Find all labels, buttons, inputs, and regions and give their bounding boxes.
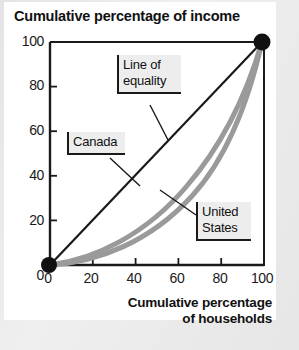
annotation-canada-line1: Canada <box>73 134 120 150</box>
chart-screenshot: Cumulative percentage of income 100 80 6… <box>0 0 299 350</box>
annotation-united-states: United States <box>196 202 251 241</box>
origin-marker <box>41 257 57 273</box>
annotation-united-states-line2: States <box>202 220 246 236</box>
canada-leader-line <box>110 158 140 186</box>
lorenz-curve-figure: Cumulative percentage of income 100 80 6… <box>0 0 299 350</box>
top-right-marker <box>254 34 271 51</box>
x-axis-title-line2: of households <box>20 311 272 327</box>
equality-leader-line <box>150 105 168 140</box>
annotation-canada: Canada <box>67 132 125 155</box>
annotation-united-states-line1: United <box>202 204 246 220</box>
annotation-line-of-equality-line1: Line of <box>123 57 176 73</box>
x-axis-title: Cumulative percentage of households <box>20 295 272 327</box>
annotation-line-of-equality-line2: equality <box>123 73 176 89</box>
x-axis-title-line1: Cumulative percentage <box>20 295 272 311</box>
annotation-line-of-equality: Line of equality <box>117 55 181 94</box>
